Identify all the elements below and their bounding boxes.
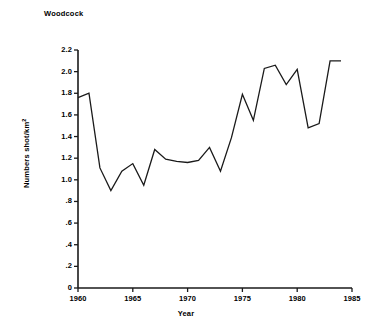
- y-axis-tick-label: .8: [38, 196, 72, 205]
- y-axis-tick-label: 1.4: [38, 132, 72, 141]
- x-axis-tick-label: 1985: [332, 294, 372, 303]
- x-axis-tick-label: 1965: [113, 294, 153, 303]
- y-axis-tick-label: 2.0: [38, 67, 72, 76]
- x-axis-tick-label: 1975: [222, 294, 262, 303]
- x-axis-tick-label: 1970: [168, 294, 208, 303]
- y-axis-tick-label: 1.0: [38, 175, 72, 184]
- chart-figure: Woodcock Numbers shot/km2 Year 0.2.4.6.8…: [0, 0, 372, 327]
- y-axis-tick-label: 2.2: [38, 45, 72, 54]
- x-axis-label: Year: [0, 309, 372, 318]
- chart-title: Woodcock: [44, 9, 83, 18]
- x-axis-tick-label: 1980: [277, 294, 317, 303]
- y-axis-tick-label: 1.8: [38, 88, 72, 97]
- y-axis-tick-label: .4: [38, 240, 72, 249]
- x-axis-tick-label: 1960: [58, 294, 98, 303]
- axes: [78, 50, 352, 288]
- y-axis-tick-label: .2: [38, 261, 72, 270]
- data-series-line: [78, 61, 341, 191]
- y-axis-tick-label: 1.6: [38, 110, 72, 119]
- y-axis-label-text: Numbers shot/km: [22, 122, 31, 188]
- y-axis-tick-label: 1.2: [38, 153, 72, 162]
- y-axis-tick-label: 0: [38, 283, 72, 292]
- y-axis-label-exponent: 2: [21, 118, 27, 121]
- y-axis-tick-label: .6: [38, 218, 72, 227]
- y-axis-label: Numbers shot/km2: [21, 108, 32, 198]
